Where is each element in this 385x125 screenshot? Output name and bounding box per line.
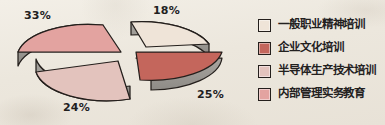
legend-item-label: 内部管理实务教育	[278, 88, 365, 100]
pie-slice-33[interactable]	[18, 24, 121, 66]
pie-slice-25[interactable]	[136, 52, 222, 90]
legend-item-label: 企业文化培训	[278, 42, 343, 54]
legend-item-label: 半导体生产技术培训	[278, 65, 376, 77]
pie-value-label-25: 25%	[197, 88, 224, 101]
legend-swatch-icon	[258, 42, 271, 55]
pie-value-label-24: 24%	[63, 101, 90, 114]
legend-item-semiconductor-production-tech-training[interactable]: 半导体生产技术培训	[258, 60, 382, 82]
chart-legend: 一般职业精神培训 企业文化培训 半导体生产技术培训 内部管理实务教育	[258, 14, 382, 105]
legend-item-general-vocational-spirit-training[interactable]: 一般职业精神培训	[258, 14, 382, 36]
pie-chart-plot-area: 33% 18% 25% 24%	[0, 0, 250, 125]
legend-item-label: 一般职业精神培训	[278, 19, 365, 31]
legend-item-corporate-culture-training[interactable]: 企业文化培训	[258, 37, 382, 59]
pie-slice-24[interactable]	[36, 59, 130, 101]
legend-item-internal-management-practice-education[interactable]: 内部管理实务教育	[258, 83, 382, 105]
legend-swatch-icon	[258, 19, 271, 32]
legend-swatch-icon	[258, 88, 271, 101]
pie-value-label-18: 18%	[153, 4, 180, 17]
legend-swatch-icon	[258, 65, 271, 78]
pie-chart-figure: 33% 18% 25% 24% 一般职业精神培训 企业文化培训 半导体生产技术培…	[0, 0, 385, 125]
pie-value-label-33: 33%	[24, 9, 51, 22]
